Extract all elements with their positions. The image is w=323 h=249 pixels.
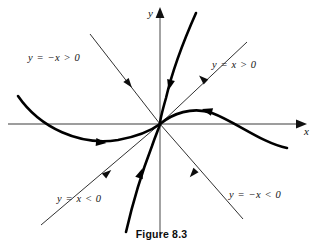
- asymptote-label-lower-left: y = x < 0: [57, 194, 102, 205]
- x-axis-label: x: [304, 126, 309, 137]
- asymptote-label-upper-right: y = x > 0: [212, 60, 257, 71]
- trajectory-left-curve: [18, 96, 160, 141]
- trajectory-bottom-curve: [126, 124, 160, 232]
- y-axis-label: y: [148, 8, 153, 19]
- trajectory-right-curve: [160, 110, 287, 148]
- figure-8-3: y x y = −x > 0 y = x > 0 y = x < 0 y = −…: [0, 0, 323, 249]
- asymptote-lower-right-arrow-icon: [187, 168, 198, 180]
- asymptote-label-upper-left: y = −x > 0: [28, 53, 80, 64]
- y-axis-arrowhead-icon: [156, 7, 165, 18]
- phase-portrait-plot: [0, 0, 323, 249]
- asymptote-upper-right-arrow-icon: [197, 73, 209, 84]
- asymptote-lower-right-line: [160, 124, 243, 219]
- trajectory-top-arrow-icon: [165, 79, 175, 91]
- asymptote-label-lower-right: y = −x < 0: [229, 190, 281, 201]
- trajectory-left-arrow-icon: [96, 138, 107, 147]
- asymptote-upper-left-line: [90, 34, 160, 124]
- figure-caption: Figure 8.3: [0, 228, 323, 240]
